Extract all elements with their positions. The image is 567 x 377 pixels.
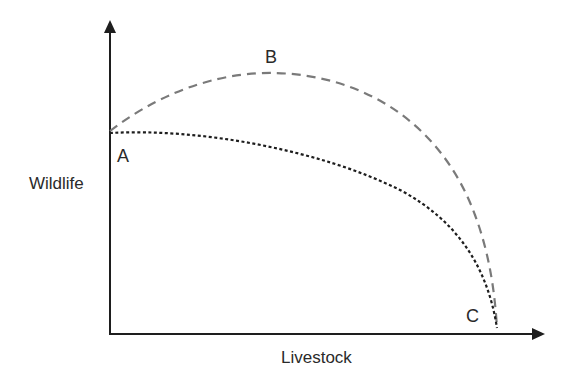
x-axis-title: Livestock [281, 349, 352, 366]
ppf-diagram [0, 0, 567, 377]
y-axis-title: Wildlife [29, 175, 84, 192]
dashed-curve-abc [110, 73, 497, 328]
point-label-b: B [265, 48, 277, 66]
point-label-a: A [117, 147, 129, 165]
point-label-c: C [466, 307, 479, 325]
dotted-curve-ac [110, 132, 497, 328]
x-axis-arrow-icon [532, 328, 545, 340]
y-axis-arrow-icon [104, 20, 116, 33]
